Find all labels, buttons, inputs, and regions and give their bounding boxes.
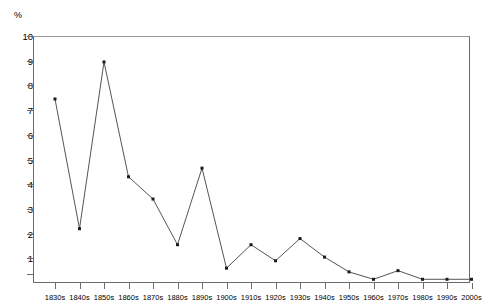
x-tick-label-2000s: 2000s — [457, 293, 487, 302]
x-tick-mark-1880s — [178, 283, 179, 289]
y-axis: 10987654321 — [0, 0, 33, 308]
x-tick-mark-1930s — [300, 283, 301, 289]
x-tick-mark-1900s — [227, 283, 228, 289]
chart-container: % 10987654321 1830s1840s1850s1860s1870s1… — [0, 0, 492, 308]
x-tick-mark-1860s — [129, 283, 130, 289]
x-tick-mark-2000s — [472, 283, 473, 289]
y-tick-mark-5 — [27, 160, 33, 161]
x-tick-mark-1890s — [202, 283, 203, 289]
x-tick-mark-1980s — [423, 283, 424, 289]
y-tick-mark-3 — [27, 209, 33, 210]
y-tick-mark-6 — [27, 135, 33, 136]
data-point-2000s — [470, 278, 473, 281]
y-tick-mark-9 — [27, 61, 33, 62]
x-tick-mark-1850s — [104, 283, 105, 289]
y-tick-mark-8 — [27, 85, 33, 86]
y-tick-mark-10 — [27, 36, 33, 37]
y-tick-mark-2 — [27, 234, 33, 235]
y-tick-mark-4 — [27, 184, 33, 185]
x-tick-mark-1940s — [325, 283, 326, 289]
y-tick-mark-minor — [27, 274, 33, 275]
x-tick-mark-1870s — [153, 283, 154, 289]
y-tick-mark-1 — [27, 258, 33, 259]
x-tick-mark-1990s — [447, 283, 448, 289]
x-tick-mark-1830s — [55, 283, 56, 289]
y-tick-mark-7 — [27, 110, 33, 111]
x-tick-mark-1920s — [276, 283, 277, 289]
x-tick-mark-1910s — [251, 283, 252, 289]
x-tick-mark-1970s — [398, 283, 399, 289]
x-tick-mark-1960s — [374, 283, 375, 289]
x-tick-mark-1950s — [349, 283, 350, 289]
x-tick-mark-1840s — [80, 283, 81, 289]
plot-area-frame — [33, 36, 470, 283]
